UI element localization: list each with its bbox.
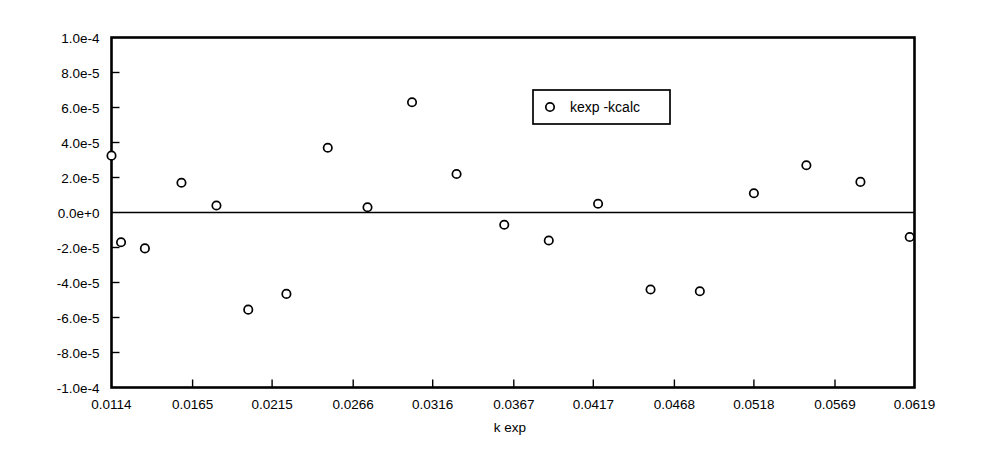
data-point-marker xyxy=(696,287,704,295)
x-tick-label: 0.0266 xyxy=(333,397,374,412)
data-point-marker xyxy=(141,244,149,252)
x-axis-title: k exp xyxy=(494,420,526,435)
data-point-marker xyxy=(646,285,654,293)
y-tick-label: 1.0e-4 xyxy=(61,31,100,46)
x-tick-label: 0.0367 xyxy=(493,397,534,412)
data-point-marker xyxy=(452,170,460,178)
data-point-marker xyxy=(802,161,810,169)
x-tick-label: 0.0468 xyxy=(654,397,695,412)
y-tick-label: -1.0e-4 xyxy=(57,381,100,396)
data-point-marker xyxy=(545,236,553,244)
data-point-markers xyxy=(107,98,914,314)
legend-entry-label: kexp -kcalc xyxy=(570,99,640,115)
x-tick-label: 0.0417 xyxy=(573,397,614,412)
data-point-marker xyxy=(856,178,864,186)
x-tick-label: 0.0619 xyxy=(894,397,935,412)
screenshot-root: 1.0e-48.0e-56.0e-54.0e-52.0e-50.0e+0-2.0… xyxy=(0,0,983,455)
data-point-marker xyxy=(212,201,220,209)
plot-svg: 1.0e-48.0e-56.0e-54.0e-52.0e-50.0e+0-2.0… xyxy=(0,0,983,455)
data-point-marker xyxy=(500,221,508,229)
x-axis-tick-labels: 0.01140.01650.02150.02660.03160.03670.04… xyxy=(91,397,935,412)
data-point-marker xyxy=(750,189,758,197)
y-tick-label: -8.0e-5 xyxy=(57,346,100,361)
data-point-marker xyxy=(244,305,252,313)
y-tick-label: 0.0e+0 xyxy=(58,206,100,221)
x-tick-label: 0.0165 xyxy=(172,397,213,412)
y-axis-tick-labels: 1.0e-48.0e-56.0e-54.0e-52.0e-50.0e+0-2.0… xyxy=(57,31,100,396)
legend-marker-icon xyxy=(546,103,554,111)
data-point-marker xyxy=(906,233,914,241)
x-tick-label: 0.0215 xyxy=(251,397,292,412)
data-point-marker xyxy=(594,200,602,208)
x-tick-label: 0.0518 xyxy=(733,397,774,412)
y-tick-label: 2.0e-5 xyxy=(61,171,99,186)
chart-legend[interactable]: kexp -kcalc xyxy=(533,90,670,124)
y-tick-label: 6.0e-5 xyxy=(61,101,99,116)
y-tick-label: -4.0e-5 xyxy=(57,276,100,291)
data-point-marker xyxy=(363,203,371,211)
data-point-marker xyxy=(408,98,416,106)
x-tick-label: 0.0114 xyxy=(91,397,132,412)
data-point-marker xyxy=(107,151,115,159)
data-point-marker xyxy=(324,144,332,152)
y-tick-label: 4.0e-5 xyxy=(61,136,99,151)
y-tick-label: 8.0e-5 xyxy=(61,66,99,81)
data-point-marker xyxy=(117,238,125,246)
x-tick-label: 0.0316 xyxy=(412,397,453,412)
y-tick-label: -6.0e-5 xyxy=(57,311,100,326)
x-tick-label: 0.0569 xyxy=(814,397,855,412)
data-point-marker xyxy=(282,290,290,298)
y-tick-label: -2.0e-5 xyxy=(57,241,100,256)
data-point-marker xyxy=(177,179,185,187)
residual-scatter-chart: 1.0e-48.0e-56.0e-54.0e-52.0e-50.0e+0-2.0… xyxy=(0,0,983,455)
